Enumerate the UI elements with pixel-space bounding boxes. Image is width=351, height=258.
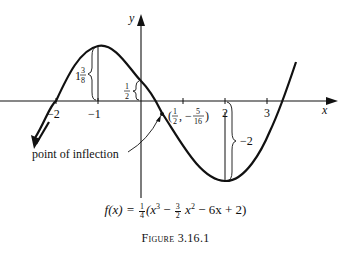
svg-text:16: 16 bbox=[194, 117, 202, 126]
min-depth-brace bbox=[227, 102, 236, 181]
svg-text:1: 1 bbox=[173, 107, 177, 116]
y-axis-label: y bbox=[128, 11, 135, 25]
inflection-pointer bbox=[128, 118, 159, 152]
inflection-coordinates: ( 1 2 , − 5 16 ) bbox=[168, 107, 209, 126]
function-equation: f(x) = 14(x3 − 32 x2 − 6x + 2) bbox=[0, 202, 351, 220]
svg-text:(: ( bbox=[168, 109, 172, 123]
svg-text:, −: , − bbox=[179, 109, 192, 123]
tick-label-3: 3 bbox=[264, 106, 270, 120]
max-height-den: 8 bbox=[81, 76, 85, 85]
y-axis-arrow-icon bbox=[137, 14, 145, 26]
y-intercept-den: 2 bbox=[125, 92, 129, 101]
tick-label-2: 2 bbox=[222, 106, 228, 120]
max-height-num: 3 bbox=[81, 66, 85, 75]
x-axis-arrow-icon bbox=[326, 97, 338, 105]
inflection-arrow-icon bbox=[156, 115, 161, 122]
y-intercept-brace bbox=[133, 81, 139, 100]
figure-caption: Figure 3.16.1 bbox=[0, 231, 351, 246]
inflection-point-marker bbox=[160, 112, 164, 116]
svg-text:5: 5 bbox=[196, 107, 200, 116]
tick-label-neg2: −2 bbox=[47, 107, 60, 121]
min-depth-label: −2 bbox=[240, 134, 253, 148]
tick-label-neg1: −1 bbox=[88, 107, 101, 121]
svg-text:): ) bbox=[205, 109, 209, 123]
y-intercept-num: 1 bbox=[125, 82, 129, 91]
svg-text:2: 2 bbox=[173, 117, 177, 126]
max-height-brace bbox=[88, 47, 96, 100]
inflection-label: point of inflection bbox=[32, 147, 119, 161]
x-axis-label: x bbox=[321, 103, 328, 117]
